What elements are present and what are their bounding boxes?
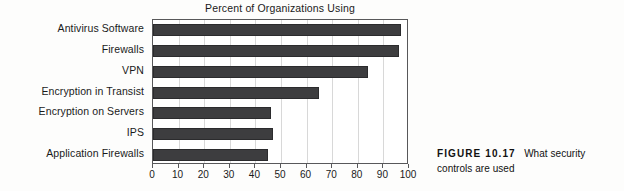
- tick-mark: [408, 164, 409, 168]
- tick-label: 80: [351, 169, 362, 180]
- tick-label: 70: [326, 169, 337, 180]
- category-label: Encryption in Transist: [41, 85, 144, 97]
- bars-layer: [153, 20, 407, 163]
- tick-label: 50: [274, 169, 285, 180]
- tick-mark: [280, 164, 281, 168]
- tick-mark: [152, 164, 153, 168]
- plot-area: [152, 19, 408, 164]
- bar: [153, 128, 273, 140]
- tick-label: 100: [400, 169, 417, 180]
- tick-mark: [382, 164, 383, 168]
- tick-label: 60: [300, 169, 311, 180]
- tick-label: 90: [377, 169, 388, 180]
- tick-mark: [178, 164, 179, 168]
- bar: [153, 66, 368, 78]
- category-label: Application Firewalls: [46, 147, 144, 159]
- category-label: VPN: [122, 64, 144, 76]
- category-label: IPS: [127, 126, 144, 138]
- tick-label: 30: [223, 169, 234, 180]
- tick-mark: [229, 164, 230, 168]
- category-label: Antivirus Software: [58, 22, 144, 34]
- x-axis-ticks: 0102030405060708090100: [152, 164, 408, 190]
- tick-label: 0: [149, 169, 155, 180]
- chart-title: Percent of Organizations Using: [152, 2, 408, 14]
- tick-label: 20: [198, 169, 209, 180]
- tick-mark: [306, 164, 307, 168]
- category-label: Firewalls: [102, 43, 144, 55]
- bar: [153, 107, 271, 119]
- bar-chart: Percent of Organizations Using Antivirus…: [0, 0, 420, 191]
- bar: [153, 24, 401, 36]
- bar: [153, 45, 399, 57]
- tick-label: 10: [172, 169, 183, 180]
- tick-mark: [357, 164, 358, 168]
- figure-caption: FIGURE 10.17 What security controls are …: [437, 146, 622, 176]
- bar: [153, 87, 319, 99]
- figure-caption-label: FIGURE 10.17: [437, 148, 516, 159]
- tick-label: 40: [249, 169, 260, 180]
- figure-root: Percent of Organizations Using Antivirus…: [0, 0, 624, 191]
- category-axis-labels: Antivirus SoftwareFirewallsVPNEncryption…: [0, 19, 148, 164]
- tick-mark: [203, 164, 204, 168]
- tick-mark: [331, 164, 332, 168]
- bar: [153, 149, 268, 161]
- category-label: Encryption on Servers: [39, 105, 144, 117]
- tick-mark: [254, 164, 255, 168]
